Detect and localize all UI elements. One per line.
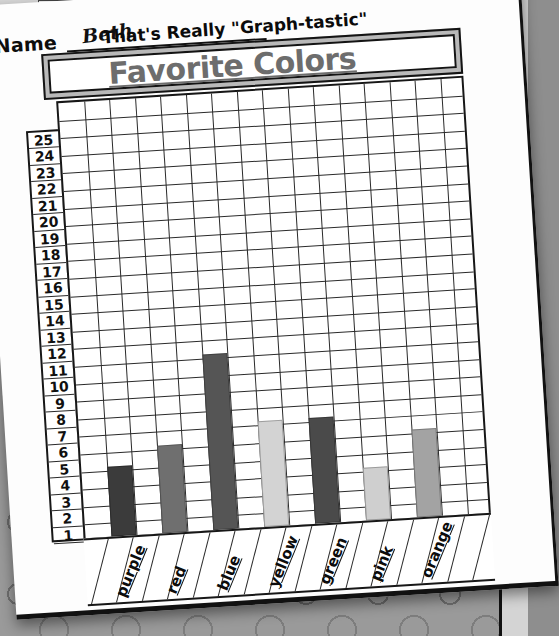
x-axis-label-red: red: [163, 563, 190, 596]
y-axis-tick-label: 8: [46, 411, 77, 429]
y-axis-tick-label: 24: [29, 148, 60, 166]
y-axis-tick-label: 17: [36, 263, 67, 281]
x-axis-divider: [470, 513, 491, 589]
x-axis-label-pink: pink: [367, 543, 398, 584]
chart-title: Favorite Colors: [107, 40, 357, 91]
y-axis-tick-label: 16: [37, 279, 68, 297]
y-axis-tick-label: 7: [47, 427, 78, 445]
x-axis-label-blue: blue: [214, 552, 245, 593]
x-axis-divider: [241, 523, 262, 603]
y-axis-tick-label: 15: [38, 296, 69, 314]
bar-purple: [107, 465, 137, 537]
x-axis-divider: [84, 534, 85, 606]
x-axis-divider: [292, 520, 313, 600]
bar-blue: [202, 353, 239, 530]
bar-red: [156, 444, 187, 533]
bar-pink: [362, 466, 391, 520]
x-axis-divider: [88, 533, 109, 607]
y-axis-tick-label: 20: [33, 213, 64, 231]
y-axis-tick-label: 18: [35, 246, 66, 264]
y-axis-tick-label: 12: [42, 345, 73, 363]
y-axis-tick-label: 21: [32, 197, 63, 215]
y-axis-tick-label: 25: [28, 131, 59, 149]
y-axis-tick-label: 4: [50, 477, 81, 495]
chart-grid: [56, 76, 491, 541]
y-axis-tick-label: 2: [52, 510, 83, 528]
y-axis-tick-label: 11: [43, 361, 74, 379]
worksheet-page: Name Beth That's Really "Graph-tastic" F…: [0, 0, 559, 620]
x-axis-divider: [190, 526, 211, 606]
x-axis-label-green: green: [316, 535, 351, 587]
y-axis-tick-label: 9: [45, 394, 76, 412]
y-axis-tick-label: 22: [31, 181, 62, 199]
y-axis-tick-label: 14: [39, 312, 70, 330]
y-axis-tick-label: 5: [49, 460, 80, 478]
y-axis-tick-label: 1: [53, 526, 84, 544]
y-axis-tick-label: 10: [44, 378, 75, 396]
y-axis-tick-label: 6: [48, 444, 79, 462]
bar-orange: [411, 428, 442, 517]
chart-plot-area: [56, 76, 491, 541]
x-axis-divider: [343, 517, 364, 597]
y-axis-tick-label: 3: [51, 493, 82, 511]
y-axis-tick-label: 23: [30, 164, 61, 182]
x-axis-divider: [139, 529, 160, 606]
y-axis-tick-label: 19: [34, 230, 65, 248]
y-axis-tick-label: 13: [40, 329, 71, 347]
x-axis-divider: [394, 513, 415, 593]
